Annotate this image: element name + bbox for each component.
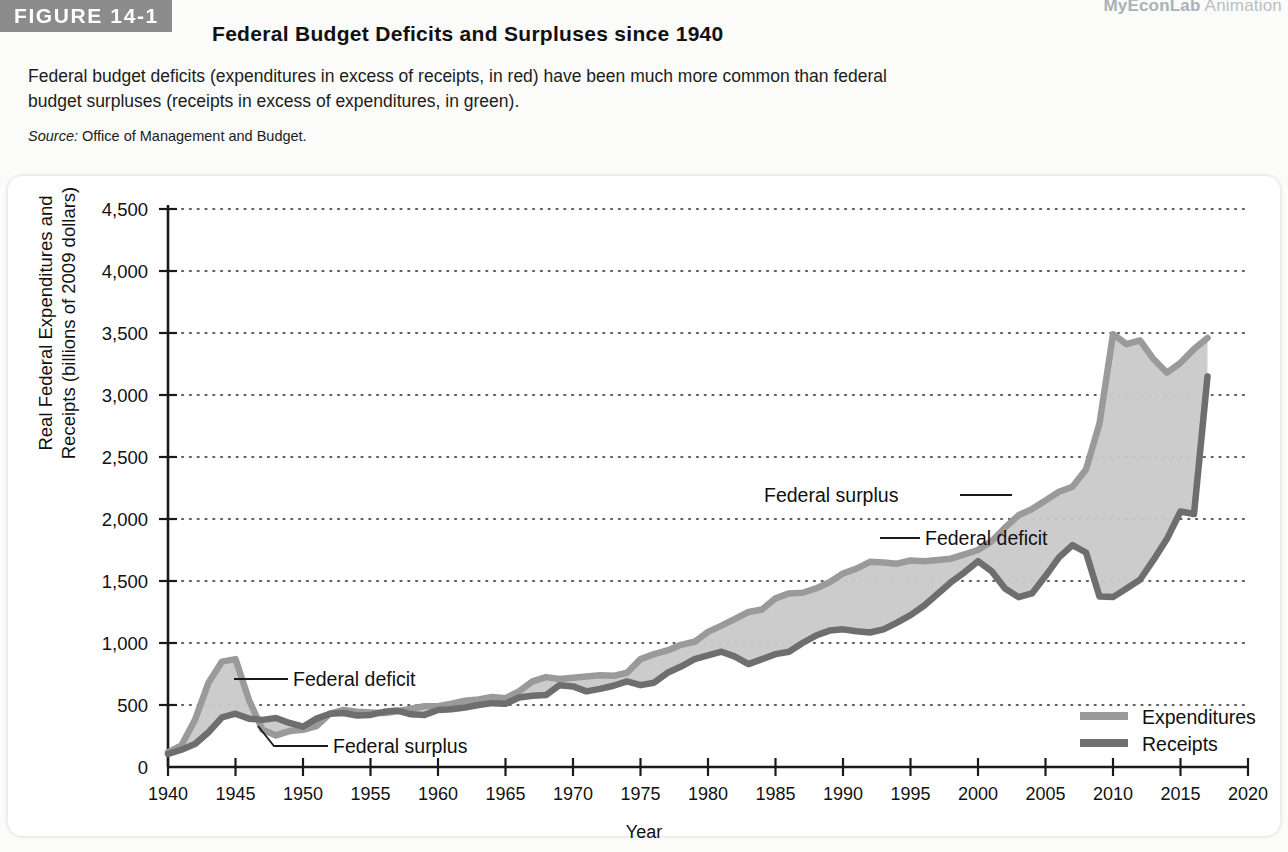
figure-tag: FIGURE 14-1	[0, 0, 172, 32]
y-axis-label: Real Federal Expenditures and Receipts (…	[34, 158, 80, 488]
x-axis-label: Year	[0, 822, 1288, 843]
figure-description: Federal budget deficits (expenditures in…	[28, 64, 888, 114]
chart-card	[8, 176, 1280, 836]
figure-source: Source: Office of Management and Budget.	[28, 128, 307, 144]
y-axis-label-text: Real Federal Expenditures and Receipts (…	[35, 187, 79, 460]
source-label: Source:	[28, 128, 78, 144]
figure-title: Federal Budget Deficits and Surpluses si…	[212, 22, 724, 46]
myeconlab-brand: MyEconLab	[1103, 0, 1200, 15]
source-text: Office of Management and Budget.	[82, 128, 307, 144]
myeconlab-suffix: Animation	[1205, 0, 1282, 15]
myeconlab-label: MyEconLab Animation	[1103, 0, 1282, 16]
